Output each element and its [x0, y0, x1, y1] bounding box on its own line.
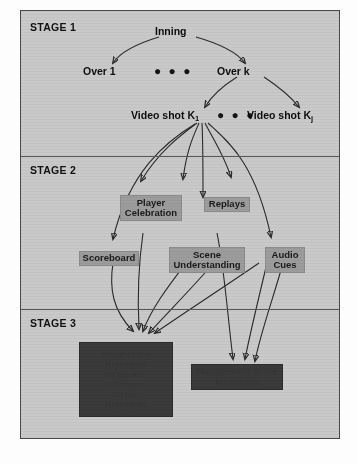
over-ellipsis: ● ● ● — [154, 64, 192, 78]
scan-artifact-bottom — [30, 444, 34, 454]
video-shot-first-label: Video shot K — [131, 109, 195, 121]
diagram-frame: STAGE 1 STAGE 2 STAGE 3 Inning Over 1 ● … — [20, 10, 340, 439]
stage-label-3: STAGE 3 — [30, 317, 76, 329]
stage-label-2: STAGE 2 — [30, 164, 76, 176]
box-scoreboard[interactable]: Scoreboard — [79, 251, 139, 266]
event-detection-line-5: Of the — [114, 390, 138, 400]
video-shot-last-subscript: j — [311, 114, 313, 123]
box-replays[interactable]: Replays — [204, 197, 250, 212]
node-video-shot-first: Video shot K1 — [131, 109, 199, 121]
box-scene-understanding[interactable]: SceneUnderstanding — [169, 247, 245, 273]
stage-label-1: STAGE 1 — [30, 21, 76, 33]
stage-divider-2 — [21, 309, 339, 310]
video-shot-last-label: Video shot K — [247, 109, 311, 121]
highlight-management-line-1: Management of the — [197, 366, 278, 377]
event-detection-line-3: Of the key — [106, 370, 147, 380]
event-detection-line-2: Highlights — [105, 360, 146, 370]
node-over-first: Over 1 — [83, 65, 116, 77]
box-scoreboard-label: Scoreboard — [83, 253, 136, 264]
diagram-canvas: STAGE 1 STAGE 2 STAGE 3 Inning Over 1 ● … — [0, 0, 357, 464]
box-replays-label: Replays — [209, 199, 245, 210]
node-video-shot-last: Video shot Kj — [247, 109, 313, 121]
video-shot-first-subscript: 1 — [195, 114, 199, 123]
node-inning: Inning — [155, 25, 187, 37]
stage-divider-1 — [21, 156, 339, 157]
box-event-detection[interactable]: Event of the Highlights Of the key Chang… — [79, 342, 173, 417]
event-detection-line-6: Highlights — [105, 400, 146, 410]
node-over-last: Over k — [217, 65, 250, 77]
box-scene-understanding-label: SceneUnderstanding — [173, 250, 240, 271]
event-detection-line-4: Changes — [108, 380, 143, 390]
box-highlight-management[interactable]: Management of the Highlights — [191, 364, 283, 390]
event-detection-line-1: Event of the — [102, 350, 150, 360]
box-player-celebration[interactable]: PlayerCelebration — [120, 195, 182, 221]
box-player-celebration-label: PlayerCelebration — [125, 198, 177, 219]
highlight-management-line-2: Highlights — [215, 377, 259, 388]
box-audio-cues[interactable]: AudioCues — [265, 247, 305, 273]
box-audio-cues-label: AudioCues — [272, 250, 299, 271]
